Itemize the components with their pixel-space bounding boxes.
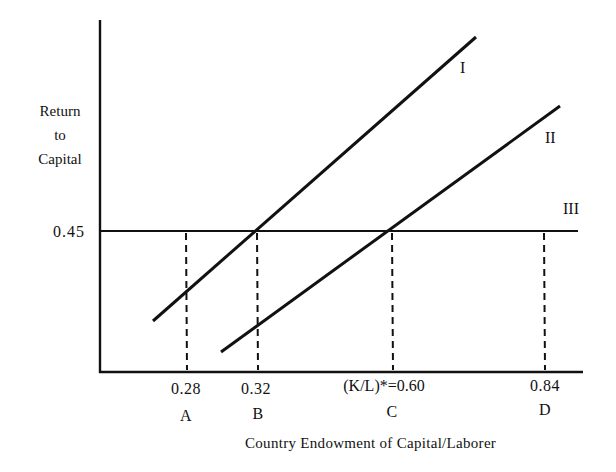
chart-figure: Return to Capital 0.45 I II III 0.28 0.3…: [0, 0, 616, 472]
line-label-I: I: [460, 59, 465, 76]
guide-A: [186, 233, 187, 370]
line-label-III: III: [563, 200, 579, 217]
x-tick-032: 0.32: [241, 380, 271, 397]
x-letter-C: C: [386, 403, 397, 420]
chart-canvas: [0, 0, 616, 472]
guide-C: [392, 233, 393, 370]
guide-B: [257, 233, 258, 370]
guide-D: [544, 233, 545, 370]
dashed-guides: [186, 233, 545, 370]
x-tick-084: 0.84: [530, 377, 560, 394]
x-axis-title: Country Endowment of Capital/Laborer: [245, 435, 496, 452]
y-axis-label: Return to Capital: [24, 99, 96, 171]
line-II: [221, 106, 560, 352]
y-label-line-3: Capital: [24, 147, 96, 171]
x-letter-B: B: [252, 405, 263, 422]
x-letter-A: A: [180, 407, 192, 424]
x-tick-060: (K/L)*=0.60: [343, 377, 424, 394]
y-tick-045: 0.45: [53, 223, 85, 240]
line-I: [153, 37, 476, 321]
x-letter-D: D: [539, 401, 551, 418]
y-label-line-1: Return: [24, 99, 96, 123]
x-tick-028: 0.28: [171, 380, 201, 397]
line-label-II: II: [545, 129, 556, 146]
y-label-line-2: to: [24, 123, 96, 147]
